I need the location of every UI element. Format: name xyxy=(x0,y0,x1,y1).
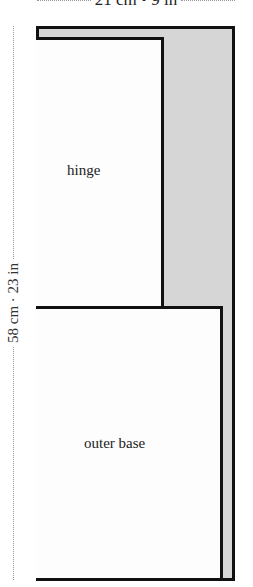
height-dimension-leader-bottom xyxy=(13,347,14,580)
outer-base-label: outer base xyxy=(84,435,145,452)
hinge-label: hinge xyxy=(67,162,100,179)
outer-base-piece: outer base xyxy=(36,306,223,578)
height-dimension-leader-top xyxy=(13,26,14,259)
hinge-piece: hinge xyxy=(36,37,164,311)
width-dimension-leader-left xyxy=(37,0,91,1)
width-dimension: 21 cm • 9 in xyxy=(37,0,235,9)
width-dimension-label: 21 cm • 9 in xyxy=(91,0,181,10)
height-dimension-label: 58 cm · 23 in xyxy=(5,259,22,347)
width-dimension-leader-right xyxy=(181,0,235,1)
height-dimension: 58 cm · 23 in xyxy=(4,26,22,580)
